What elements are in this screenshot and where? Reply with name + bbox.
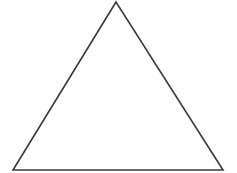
diagram-canvas — [0, 0, 237, 173]
triangle-shape — [13, 2, 223, 170]
